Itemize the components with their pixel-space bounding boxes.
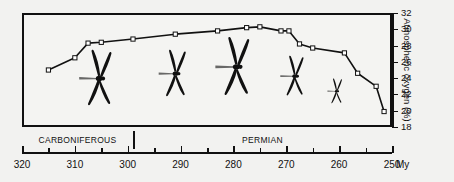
y-axis-tick	[392, 111, 398, 112]
x-axis-tick-minor	[366, 148, 368, 152]
x-axis-tick-major	[128, 146, 130, 153]
x-axis-tick-label: 290	[172, 160, 189, 170]
x-axis-tick-label: 310	[67, 160, 84, 170]
dragonfly-5-icon	[326, 78, 347, 108]
x-axis-tick-minor	[101, 148, 103, 152]
dragonfly-2-icon	[156, 49, 195, 102]
x-axis-unit-label: My	[396, 160, 409, 170]
x-axis-tick-minor	[260, 148, 262, 152]
x-axis-line	[22, 152, 392, 154]
period-label-permian: PERMIAN	[133, 131, 392, 149]
dragonfly-4-icon	[278, 55, 311, 101]
x-axis-tick-major	[286, 146, 288, 153]
y-axis-tick	[392, 94, 398, 95]
x-axis-tick-major	[75, 146, 77, 153]
x-axis-tick-major	[181, 146, 183, 153]
y-axis-tick	[392, 29, 398, 30]
x-axis-tick-minor	[48, 148, 50, 152]
x-axis-tick-label: 270	[278, 160, 295, 170]
x-axis-tick-label: 320	[14, 160, 31, 170]
period-label-carboniferous: CARBONIFEROUS	[22, 131, 133, 149]
y-axis-tick	[392, 127, 398, 128]
y-axis-tick	[392, 62, 398, 63]
x-axis-tick-major	[233, 146, 235, 153]
geologic-period-band: CARBONIFEROUSPERMIAN	[22, 131, 392, 149]
x-axis-tick-minor	[313, 148, 315, 152]
x-axis-tick-minor	[207, 148, 209, 152]
x-axis-tick-label: 280	[225, 160, 242, 170]
figure-root: 1820222426283032 Atmospheric oxygen (%) …	[0, 0, 454, 182]
x-axis-tick-label: 260	[331, 160, 348, 170]
y-axis-tick	[392, 13, 398, 14]
x-axis-tick-major	[339, 146, 341, 153]
y-axis-tick	[392, 78, 398, 79]
x-axis-tick-minor	[154, 148, 156, 152]
y-axis-tick	[392, 46, 398, 47]
x-axis-tick-label: 300	[119, 160, 136, 170]
x-axis-tick-major	[392, 146, 394, 153]
x-axis-tick-major	[22, 146, 24, 153]
y-axis-title: Atmospheric oxygen (%)	[400, 13, 414, 127]
period-divider	[133, 131, 135, 149]
dragonfly-3-icon	[212, 36, 260, 101]
dragonfly-1-icon	[76, 49, 122, 111]
